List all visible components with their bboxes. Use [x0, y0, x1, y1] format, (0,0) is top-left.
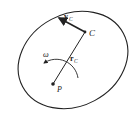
- label-c: C: [89, 28, 96, 38]
- label-vc-symbol: v: [64, 12, 68, 21]
- position-vector-rc: [53, 32, 85, 84]
- label-omega: ω: [43, 50, 49, 59]
- point-c: [84, 31, 87, 34]
- label-vc-subscript: C: [69, 16, 73, 22]
- label-rc-subscript: C: [74, 58, 78, 64]
- rigid-body-diagram: C P v C r C ω: [0, 0, 135, 122]
- point-p: [51, 82, 55, 86]
- label-p: P: [56, 85, 62, 94]
